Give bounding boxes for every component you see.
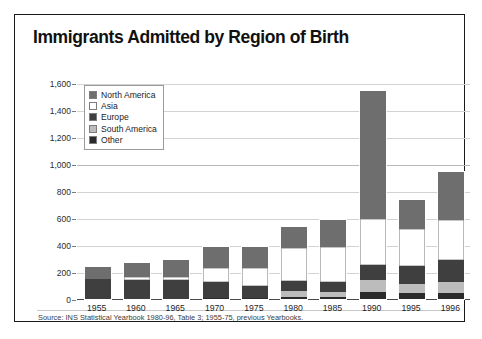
bar-segment-south-america[interactable] (399, 284, 425, 293)
bar-segment-other[interactable] (438, 293, 464, 299)
chart-frame: Immigrants Admitted by Region of Birth 0… (14, 14, 465, 322)
bar-1996[interactable] (437, 171, 465, 300)
y-axis-tick (72, 246, 76, 247)
bar-1975[interactable] (241, 246, 269, 300)
y-axis-tick (72, 165, 76, 166)
legend-item[interactable]: South America (89, 123, 157, 134)
bar-1965[interactable] (162, 259, 190, 300)
bar-segment-north-america[interactable] (399, 200, 425, 229)
legend-label: North America (101, 90, 155, 100)
bar-1960[interactable] (123, 262, 151, 300)
legend-swatch-icon (89, 113, 97, 121)
bar-segment-north-america[interactable] (85, 267, 111, 280)
x-axis-tick-label: 1996 (427, 303, 473, 313)
y-axis-tick-label: 200 (37, 268, 71, 278)
bar-segment-south-america[interactable] (360, 280, 386, 291)
legend-item[interactable]: Asia (89, 100, 157, 111)
y-axis-tick-label: 800 (37, 187, 71, 197)
y-axis-tick (72, 273, 76, 274)
bar-segment-asia[interactable] (281, 248, 307, 281)
bar-segment-south-america[interactable] (438, 282, 464, 292)
y-axis-tick (72, 111, 76, 112)
y-axis-tick-label: 1,600 (37, 79, 71, 89)
bar-segment-europe[interactable] (360, 265, 386, 281)
chart-legend: North AmericaAsiaEuropeSouth AmericaOthe… (84, 85, 164, 150)
bar-segment-north-america[interactable] (360, 91, 386, 219)
bar-segment-asia[interactable] (320, 247, 346, 283)
legend-label: Europe (101, 112, 129, 122)
source-note: Source: INS Statistical Yearbook 1980-96… (38, 313, 303, 322)
legend-swatch-icon (89, 102, 97, 110)
bar-segment-other[interactable] (281, 297, 307, 299)
legend-swatch-icon (89, 91, 97, 99)
bar-segment-europe[interactable] (320, 282, 346, 291)
bar-1985[interactable] (319, 219, 347, 300)
y-axis-tick (72, 192, 76, 193)
bar-segment-asia[interactable] (399, 229, 425, 266)
bar-segment-north-america[interactable] (124, 263, 150, 277)
bar-segment-europe[interactable] (438, 260, 464, 282)
legend-label: Other (101, 135, 123, 145)
y-axis-tick-label: 1,000 (37, 160, 71, 170)
legend-swatch-icon (89, 125, 97, 133)
bar-1990[interactable] (359, 90, 387, 300)
bar-segment-north-america[interactable] (320, 220, 346, 247)
chart-title: Immigrants Admitted by Region of Birth (33, 27, 349, 48)
bar-segment-europe[interactable] (124, 280, 150, 299)
bar-segment-north-america[interactable] (438, 172, 464, 220)
y-axis-tick (72, 300, 76, 301)
y-axis-tick-label: 400 (37, 241, 71, 251)
bar-segment-asia[interactable] (242, 268, 268, 286)
legend-item[interactable]: North America (89, 89, 157, 100)
bar-segment-europe[interactable] (85, 279, 111, 299)
bar-segment-north-america[interactable] (163, 260, 189, 278)
bar-1980[interactable] (280, 226, 308, 300)
bar-segment-asia[interactable] (438, 220, 464, 261)
y-axis-tick-label: 1,200 (37, 133, 71, 143)
legend-item[interactable]: Europe (89, 112, 157, 123)
y-axis-tick-label: 600 (37, 214, 71, 224)
bar-segment-north-america[interactable] (281, 227, 307, 248)
bar-segment-europe[interactable] (163, 280, 189, 299)
bar-1970[interactable] (202, 246, 230, 300)
y-axis-tick-label: 1,400 (37, 106, 71, 116)
bar-segment-asia[interactable] (203, 268, 229, 282)
gridline (77, 165, 470, 166)
legend-label: South America (101, 124, 157, 134)
bar-segment-other[interactable] (242, 298, 268, 299)
bar-segment-north-america[interactable] (242, 247, 268, 268)
legend-label: Asia (101, 101, 118, 111)
bar-segment-north-america[interactable] (203, 247, 229, 269)
bar-1995[interactable] (398, 199, 426, 300)
bar-segment-europe[interactable] (281, 281, 307, 291)
bar-segment-other[interactable] (399, 293, 425, 299)
y-axis-tick (72, 138, 76, 139)
y-axis-tick (72, 84, 76, 85)
bar-segment-europe[interactable] (399, 266, 425, 284)
bar-segment-europe[interactable] (203, 282, 229, 298)
bar-segment-europe[interactable] (242, 286, 268, 297)
gridline (77, 192, 470, 193)
legend-swatch-icon (89, 136, 97, 144)
y-axis-tick-label: 0 (37, 295, 71, 305)
y-axis-tick (72, 219, 76, 220)
legend-item[interactable]: Other (89, 135, 157, 146)
bar-segment-asia[interactable] (360, 219, 386, 265)
bar-segment-other[interactable] (203, 298, 229, 299)
bar-segment-other[interactable] (360, 292, 386, 299)
bar-segment-other[interactable] (320, 297, 346, 299)
bar-1955[interactable] (84, 266, 112, 300)
